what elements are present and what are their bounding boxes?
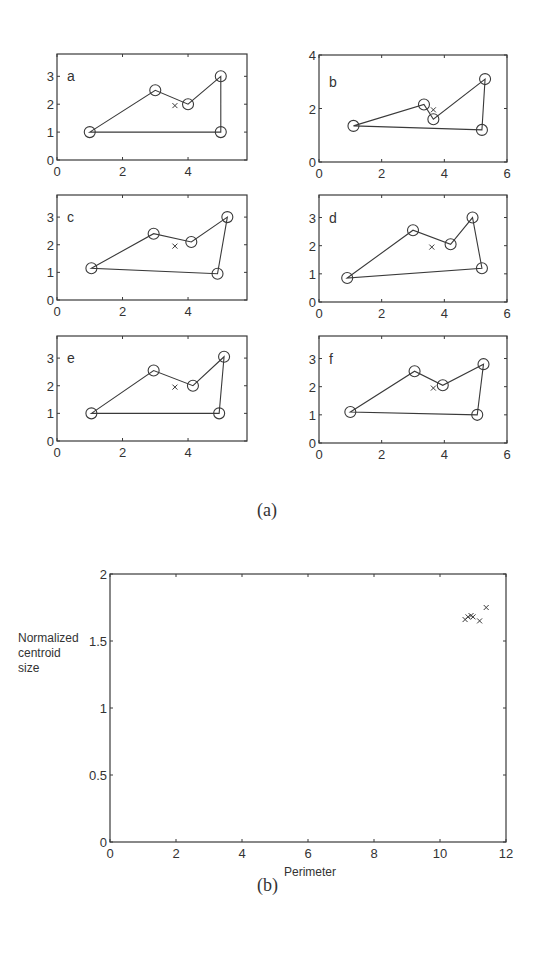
panel-c: 0240123c [47, 195, 247, 319]
x-tick-label: 0 [53, 445, 60, 460]
x-tick-label: 6 [503, 306, 510, 321]
panel-label: b [329, 74, 337, 90]
panel-label: d [329, 210, 337, 226]
x-tick-label: 6 [304, 846, 311, 861]
x-tick-label: 0 [315, 306, 322, 321]
axes-box [319, 55, 507, 162]
panel-e: 0240123e [47, 336, 247, 460]
axes-box [57, 195, 247, 300]
axes-box [319, 336, 507, 443]
panel-a: 0240123a [47, 54, 247, 179]
panel-label: c [67, 209, 74, 225]
panel-f: 02460123f [309, 336, 511, 462]
x-tick-label: 0 [106, 846, 113, 861]
x-tick-label: 12 [499, 846, 513, 861]
shape-outline [91, 217, 227, 274]
y-tick-label: 1 [47, 406, 54, 421]
x-tick-label: 4 [441, 306, 448, 321]
centroid-marker [172, 385, 177, 390]
axes-box [57, 54, 247, 160]
y-tick-label: 3 [47, 210, 54, 225]
scatter-point [471, 614, 476, 619]
centroid-marker [172, 103, 177, 108]
y-tick-label: 3 [309, 352, 316, 367]
y-tick-label: 2 [47, 238, 54, 253]
y-tick-label: 2 [309, 239, 316, 254]
caption-a: (a) [257, 500, 277, 521]
panel-b: 0246024b [309, 48, 511, 181]
y-tick-label: 2 [47, 97, 54, 112]
x-tick-label: 2 [119, 164, 126, 179]
x-tick-label: 4 [441, 166, 448, 181]
bottom-x-axis-label: Perimeter [284, 865, 336, 879]
y-tick-label: 1 [47, 125, 54, 140]
y-tick-label: 0 [309, 295, 316, 310]
y-tick-label: 4 [309, 48, 316, 63]
centroid-marker [431, 107, 436, 112]
y-tick-label: 2 [309, 380, 316, 395]
ylabel-line-1: Normalized [18, 631, 79, 646]
x-tick-label: 2 [172, 846, 179, 861]
x-tick-label: 2 [378, 166, 385, 181]
axes-box [110, 574, 506, 842]
y-tick-label: 1 [309, 408, 316, 423]
x-tick-label: 4 [184, 304, 191, 319]
centroid-marker [431, 386, 436, 391]
y-tick-label: 1 [47, 265, 54, 280]
panel-b-bottom: 02468101200.511.52 [89, 567, 513, 861]
x-tick-label: 10 [433, 846, 447, 861]
shape-outline [347, 218, 482, 279]
y-tick-label: 3 [47, 69, 54, 84]
caption-b: (b) [257, 875, 278, 896]
panel-label: f [329, 351, 333, 367]
panel-d: 02460123d [309, 195, 511, 321]
y-tick-label: 1 [100, 701, 107, 716]
y-tick-label: 0.5 [89, 768, 107, 783]
x-tick-label: 0 [53, 164, 60, 179]
x-tick-label: 2 [119, 304, 126, 319]
x-tick-label: 6 [503, 447, 510, 462]
y-tick-label: 0 [309, 436, 316, 451]
x-tick-label: 4 [238, 846, 245, 861]
y-tick-label: 0 [100, 835, 107, 850]
ylabel-line-2: centroid [18, 646, 79, 661]
centroid-marker [429, 245, 434, 250]
x-tick-label: 6 [503, 166, 510, 181]
y-tick-label: 0 [47, 153, 54, 168]
ylabel-line-3: size [18, 661, 79, 676]
shape-outline [91, 357, 224, 414]
x-tick-label: 0 [315, 166, 322, 181]
panel-label: a [67, 68, 75, 84]
x-tick-label: 4 [441, 447, 448, 462]
x-tick-label: 4 [184, 164, 191, 179]
shape-outline [353, 79, 485, 130]
x-tick-label: 2 [378, 447, 385, 462]
x-tick-label: 0 [53, 304, 60, 319]
axes-box [57, 336, 247, 441]
centroid-marker [172, 244, 177, 249]
panel-label: e [67, 350, 75, 366]
y-tick-label: 3 [309, 211, 316, 226]
x-tick-label: 8 [370, 846, 377, 861]
shape-outline [350, 364, 483, 415]
x-tick-label: 4 [184, 445, 191, 460]
y-tick-label: 0 [309, 155, 316, 170]
x-tick-label: 2 [378, 306, 385, 321]
scatter-point [484, 605, 489, 610]
y-tick-label: 2 [100, 567, 107, 582]
y-tick-label: 3 [47, 351, 54, 366]
y-tick-label: 1 [309, 267, 316, 282]
x-tick-label: 2 [119, 445, 126, 460]
bottom-y-axis-label: Normalized centroid size [18, 631, 79, 676]
y-tick-label: 0 [47, 434, 54, 449]
x-tick-label: 0 [315, 447, 322, 462]
scatter-point [477, 618, 482, 623]
figure-canvas: 0240123a0246024b0240123c02460123d0240123… [0, 0, 539, 963]
y-tick-label: 0 [47, 293, 54, 308]
y-tick-label: 2 [47, 379, 54, 394]
y-tick-label: 1.5 [89, 634, 107, 649]
y-tick-label: 2 [309, 102, 316, 117]
